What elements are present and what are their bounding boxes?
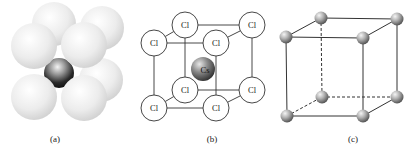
lattice-point	[391, 13, 404, 26]
cl-label: Cl	[248, 85, 257, 95]
cl-sphere-front-bottom-left	[11, 74, 57, 120]
cl-sphere-front-top-left	[11, 23, 57, 69]
cl-label: Cl	[181, 20, 190, 30]
panel-c-label: (c)	[348, 134, 358, 144]
panel-a: (a)	[11, 2, 124, 144]
lattice-point	[316, 91, 329, 104]
panel-c-atoms: (c)	[280, 12, 404, 145]
cl-sphere-front-bottom-right	[61, 75, 107, 121]
panel-a-label: (a)	[50, 134, 60, 144]
lattice-point	[280, 31, 293, 44]
lattice-point	[357, 32, 370, 45]
cl-label: Cl	[150, 103, 159, 113]
cs-label: Cs	[201, 65, 210, 75]
cl-sphere-front-top-right	[61, 22, 107, 68]
cscl-structure-figure: (a) Cl Cl Cl Cs Cl Cl Cl	[0, 0, 415, 151]
panel-c	[286, 18, 397, 116]
cl-label: Cl	[181, 85, 190, 95]
cl-label: Cl	[212, 38, 221, 48]
cl-label: Cl	[248, 20, 257, 30]
lattice-point	[315, 12, 328, 25]
lattice-point	[357, 110, 370, 123]
cl-label: Cl	[212, 103, 221, 113]
cl-label: Cl	[150, 38, 159, 48]
panel-b-label: (b)	[207, 134, 218, 144]
panel-b-atoms: Cl Cl Cl Cs Cl Cl Cl Cl Cl (b)	[141, 12, 265, 144]
lattice-point	[281, 110, 294, 123]
lattice-point	[391, 91, 404, 104]
